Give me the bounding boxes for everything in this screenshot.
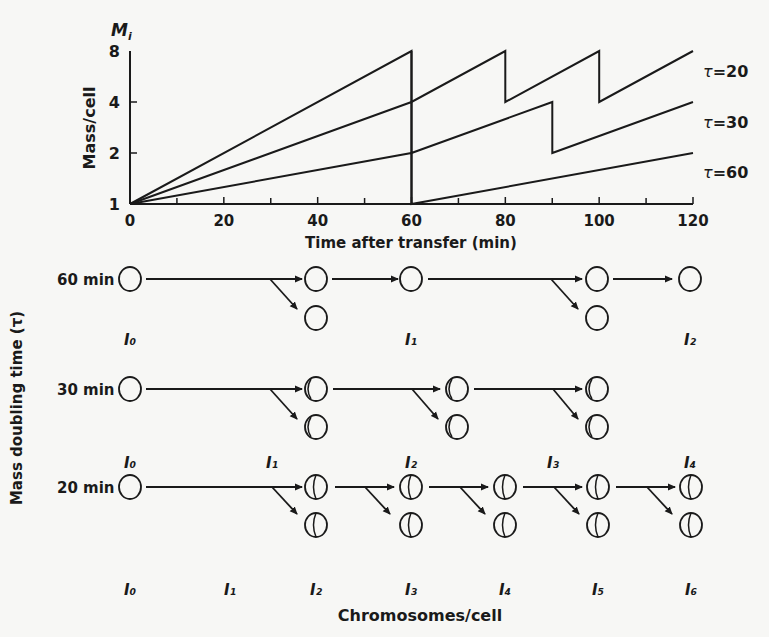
cell-icon [400, 475, 422, 499]
chromosome-label: I₀ [124, 454, 137, 472]
cells [119, 267, 702, 537]
legend-tau-30: τ=30 [703, 113, 748, 132]
chromosome-label: I₁ [405, 331, 417, 349]
arrows [146, 279, 675, 514]
cell-icon [680, 513, 702, 537]
y-tick-label: 8 [109, 42, 120, 61]
legend-tau-20: τ=20 [703, 62, 748, 81]
chart-series [130, 51, 693, 204]
division-arrow [554, 487, 579, 514]
cell-icon [680, 475, 702, 499]
row-label-30-min: 30 min [57, 381, 115, 399]
x-tick-label: 80 [495, 212, 516, 230]
cell-icon [119, 475, 141, 499]
chromosome-label: I₂ [310, 581, 323, 599]
cell-icon [586, 306, 608, 330]
division-arrow [272, 487, 297, 514]
cell-icon [305, 475, 327, 499]
division-arrow [365, 487, 390, 514]
diagram-y-axis-label: Mass doubling time (τ) [8, 311, 26, 505]
division-arrow [270, 389, 297, 419]
cell-icon [446, 415, 468, 439]
cell-icon [305, 267, 327, 291]
cell-icon [679, 267, 701, 291]
division-arrow [553, 389, 578, 419]
cell-icon [586, 415, 608, 439]
x-tick-label: 60 [401, 212, 422, 230]
y-tick-label: 1 [109, 195, 120, 214]
row-label-20-min: 20 min [57, 479, 115, 497]
x-tick-label: 40 [307, 212, 328, 230]
cell-icon [400, 513, 422, 537]
row-label-60-min: 60 min [57, 271, 115, 289]
cell-icon [119, 267, 141, 291]
x-axis-label: Time after transfer (min) [305, 234, 517, 252]
cell-icon [494, 475, 516, 499]
chromosome-label: I₅ [592, 581, 604, 599]
chromosome-label: I₂ [405, 454, 418, 472]
y-tick-label: 4 [109, 93, 120, 112]
y-axis-top-label: Mi [111, 20, 132, 43]
cell-icon [400, 267, 422, 291]
x-tick-label: 100 [584, 212, 615, 230]
chromosome-label: I₄ [499, 581, 511, 599]
chromosome-label: I₀ [124, 581, 137, 599]
chromosome-label: I₆ [685, 581, 698, 599]
division-arrow [412, 389, 438, 419]
cell-icon [494, 513, 516, 537]
cell-icon [586, 267, 608, 291]
cell-icon [305, 513, 327, 537]
x-tick-label: 20 [213, 212, 234, 230]
chromosome-label: I₁ [266, 454, 278, 472]
division-arrow [551, 279, 578, 309]
chromosome-labels: I₀I₁I₂I₀I₁I₂I₃I₄I₀I₁I₂I₃I₄I₅I₆ [124, 331, 698, 599]
cell-icon [119, 377, 141, 401]
x-tick-label: 0 [125, 212, 135, 230]
legend: τ=20 τ=30 τ=60 [703, 62, 748, 182]
division-arrow [460, 487, 485, 514]
cell-icon [587, 475, 609, 499]
division-arrow [270, 279, 297, 309]
y-tick-label: 2 [109, 144, 120, 163]
chromosome-diagram: Mass doubling time (τ) Chromosomes/cell … [8, 267, 702, 625]
cell-icon [305, 415, 327, 439]
cell-icon [446, 377, 468, 401]
x-tick-label: 120 [677, 212, 708, 230]
legend-tau-60: τ=60 [703, 163, 748, 182]
chromosome-label: I₁ [224, 581, 236, 599]
chromosome-label: I₃ [405, 581, 418, 599]
cell-icon [587, 513, 609, 537]
y-axis-label: Mass/cell [80, 87, 99, 170]
cell-icon [305, 306, 327, 330]
diagram-x-axis-label: Chromosomes/cell [338, 606, 502, 625]
x-ticks: 020406080100120 [125, 197, 709, 230]
chromosome-label: I₃ [547, 454, 560, 472]
cell-icon [305, 377, 327, 401]
chromosome-label: I₄ [684, 454, 696, 472]
figure: 020406080100120 1248 Mi Mass/cell Time a… [0, 0, 769, 637]
mass-chart: 020406080100120 1248 Mi Mass/cell Time a… [80, 20, 748, 252]
division-arrow [647, 487, 672, 514]
cell-icon [586, 377, 608, 401]
chromosome-label: I₀ [124, 331, 137, 349]
y-ticks: 1248 [109, 42, 137, 214]
chromosome-label: I₂ [684, 331, 697, 349]
